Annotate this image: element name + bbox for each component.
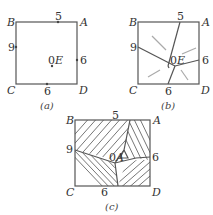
caption-b: (b): [161, 100, 175, 111]
value-center: 0: [48, 54, 55, 67]
corner-A: A: [152, 114, 161, 127]
corner-D: D: [78, 84, 88, 97]
corner-C: C: [66, 186, 75, 199]
center-label: E: [54, 54, 63, 67]
arrow-bottomright: [181, 70, 188, 80]
value-top: 5: [177, 10, 184, 23]
value-right: 6: [202, 54, 209, 67]
value-left: 9: [8, 41, 15, 54]
arrow-bottomleft: [148, 70, 160, 77]
point-left: [15, 46, 17, 48]
value-center: 0: [109, 151, 116, 164]
panel-c: B A C D 5 9 6 6 0 A (c): [52, 109, 174, 212]
corner-B: B: [65, 114, 74, 127]
value-left: 9: [66, 143, 73, 156]
value-center: 0: [170, 54, 177, 67]
value-right: 6: [80, 54, 87, 67]
caption-a: (a): [40, 100, 54, 111]
value-top: 5: [112, 109, 119, 122]
junction: [168, 66, 169, 68]
point-right: [76, 59, 78, 61]
value-bottom: 6: [44, 85, 51, 98]
diagram-canvas: B A C D 5 9 6 6 0 E (a) B A C D 5 9 6 6 …: [0, 0, 213, 215]
caption-c: (c): [105, 201, 119, 212]
line-bottom: [168, 66, 175, 84]
hatch-region-bottom-left: [68, 150, 136, 190]
value-right: 6: [152, 151, 159, 164]
arrow-topleft: [152, 36, 166, 50]
square-outline: [16, 22, 77, 84]
center-label: A: [115, 151, 124, 164]
square-outline: [138, 22, 199, 84]
center-label: E: [176, 54, 185, 67]
value-left: 9: [130, 41, 137, 54]
corner-C: C: [129, 84, 138, 97]
panel-b: B A C D 5 9 6 6 0 E (b): [128, 10, 210, 111]
corner-A: A: [201, 16, 210, 29]
corner-B: B: [6, 16, 15, 29]
corner-D: D: [151, 186, 161, 199]
corner-B: B: [128, 16, 137, 29]
value-bottom: 6: [165, 85, 172, 98]
corner-D: D: [200, 84, 210, 97]
value-top: 5: [55, 10, 62, 23]
panel-a: B A C D 5 9 6 6 0 E (a): [6, 10, 88, 111]
value-bottom: 6: [101, 186, 108, 199]
corner-A: A: [79, 16, 88, 29]
corner-C: C: [7, 84, 16, 97]
